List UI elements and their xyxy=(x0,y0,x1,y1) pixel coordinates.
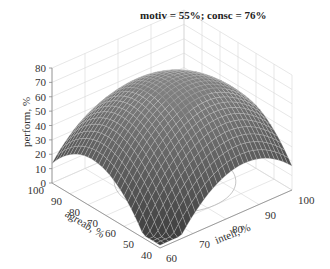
y-tick-label: 40 xyxy=(141,249,153,261)
plot-area: 0102030405060708010090807060504060708090… xyxy=(0,0,330,269)
z-tick-label: 20 xyxy=(35,148,47,160)
x-tick-label: 70 xyxy=(199,238,211,250)
z-tick-label: 10 xyxy=(35,163,47,175)
y-tick-label: 50 xyxy=(123,238,135,250)
z-tick-label: 70 xyxy=(35,76,47,88)
y-tick-label: 100 xyxy=(28,184,45,196)
z-tick-label: 30 xyxy=(35,134,47,146)
z-tick-label: 40 xyxy=(35,120,47,132)
z-tick-label: 50 xyxy=(35,105,47,117)
chart-title: motiv = 55%; consc = 76% xyxy=(140,9,267,21)
z-tick-label: 60 xyxy=(35,91,47,103)
x-tick-label: 100 xyxy=(298,194,315,206)
surface-chart: motiv = 55%; consc = 76% 010203040506070… xyxy=(0,0,330,269)
x-tick-label: 90 xyxy=(265,209,277,221)
y-tick-label: 90 xyxy=(51,195,63,207)
z-tick-label: 80 xyxy=(35,62,47,74)
z-axis-label: perform, % xyxy=(20,97,32,147)
x-tick-label: 60 xyxy=(166,252,178,264)
